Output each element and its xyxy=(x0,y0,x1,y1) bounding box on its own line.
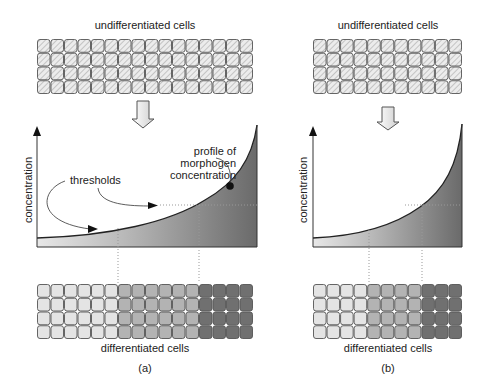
cell xyxy=(78,326,91,339)
cell xyxy=(395,81,408,94)
cell xyxy=(408,326,421,339)
cell xyxy=(159,326,172,339)
cell xyxy=(381,326,394,339)
cell xyxy=(51,81,64,94)
concentration-area-b xyxy=(313,124,462,247)
cell xyxy=(132,298,145,311)
cell xyxy=(227,53,240,66)
cell xyxy=(408,298,421,311)
cell xyxy=(435,326,448,339)
cell xyxy=(186,312,199,325)
cell xyxy=(186,285,199,298)
cell xyxy=(395,285,408,298)
cell xyxy=(78,298,91,311)
cell xyxy=(132,53,145,66)
cell xyxy=(65,53,78,66)
cell xyxy=(92,81,105,94)
cell xyxy=(381,81,394,94)
cell xyxy=(78,53,91,66)
panel-a: undifferentiated cells concentration thr… xyxy=(22,19,257,374)
cell xyxy=(119,81,132,94)
cell xyxy=(200,40,213,53)
cell xyxy=(105,312,118,325)
cell xyxy=(119,53,132,66)
cell xyxy=(146,53,159,66)
top-label-a: undifferentiated cells xyxy=(95,19,196,31)
cell xyxy=(381,298,394,311)
cell xyxy=(119,67,132,80)
cell xyxy=(422,53,435,66)
cell xyxy=(368,40,381,53)
undifferentiated-grid-a xyxy=(38,40,253,94)
cell xyxy=(173,40,186,53)
cell xyxy=(38,40,51,53)
cell xyxy=(341,326,354,339)
cell xyxy=(92,326,105,339)
cell xyxy=(240,298,253,311)
cell xyxy=(449,285,462,298)
cell xyxy=(38,285,51,298)
cell xyxy=(186,40,199,53)
cell xyxy=(314,81,327,94)
cell xyxy=(381,312,394,325)
cell xyxy=(92,67,105,80)
cell xyxy=(132,312,145,325)
cell xyxy=(449,81,462,94)
cell xyxy=(341,53,354,66)
cell xyxy=(105,298,118,311)
threshold-arrow-low-icon xyxy=(88,225,98,233)
cell xyxy=(354,312,367,325)
cell xyxy=(213,285,226,298)
cell xyxy=(213,298,226,311)
cell xyxy=(92,40,105,53)
cell xyxy=(146,81,159,94)
cell xyxy=(354,326,367,339)
cell xyxy=(105,285,118,298)
cell xyxy=(408,53,421,66)
cell xyxy=(368,285,381,298)
panel-b: undifferentiated cells concentration dif… xyxy=(297,19,462,374)
cell xyxy=(408,40,421,53)
cell xyxy=(119,285,132,298)
cell xyxy=(78,285,91,298)
cell xyxy=(146,298,159,311)
cell xyxy=(105,81,118,94)
cell xyxy=(368,298,381,311)
cell xyxy=(341,312,354,325)
undifferentiated-grid-b xyxy=(314,40,462,94)
y-axis-label-b: concentration xyxy=(297,157,309,223)
morphogen-diagram: undifferentiated cells concentration thr… xyxy=(0,0,483,389)
cell xyxy=(173,67,186,80)
cell xyxy=(327,40,340,53)
cell xyxy=(173,53,186,66)
y-axis-label-a: concentration xyxy=(22,157,34,223)
cell xyxy=(381,285,394,298)
cell xyxy=(227,81,240,94)
concentration-area-a xyxy=(37,125,257,247)
cell xyxy=(92,53,105,66)
cell xyxy=(381,53,394,66)
cell xyxy=(213,312,226,325)
cell xyxy=(78,67,91,80)
cell xyxy=(354,40,367,53)
cell xyxy=(146,67,159,80)
cell xyxy=(422,326,435,339)
cell xyxy=(449,67,462,80)
cell xyxy=(368,67,381,80)
cell xyxy=(159,40,172,53)
profile-label-line3: concentration xyxy=(170,169,236,181)
cell xyxy=(186,53,199,66)
cell xyxy=(200,285,213,298)
cell xyxy=(105,53,118,66)
cell xyxy=(354,285,367,298)
cell xyxy=(354,67,367,80)
cell xyxy=(327,326,340,339)
cell xyxy=(186,67,199,80)
cell xyxy=(368,53,381,66)
cell xyxy=(213,53,226,66)
cell xyxy=(51,40,64,53)
cell xyxy=(186,326,199,339)
cell xyxy=(146,285,159,298)
cell xyxy=(159,298,172,311)
cell xyxy=(368,81,381,94)
